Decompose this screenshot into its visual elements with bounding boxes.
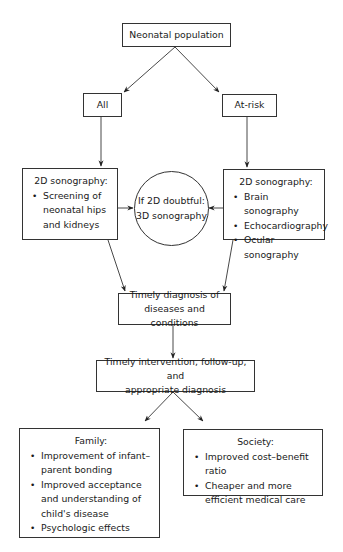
bullet-list: Brain sonography Echocardiography Ocular… [230, 190, 322, 263]
bullet-list: Screening of neonatal hips and kidneys [29, 189, 113, 233]
node-society: Society: Improved cost–benefit ratio Che… [183, 429, 323, 496]
node-timely-diagnosis: Timely diagnosis of diseases and conditi… [118, 293, 231, 325]
list-item: Screening of neonatal hips and kidneys [43, 189, 113, 233]
node-2d-sonography-screening: 2D sonography: Screening of neonatal hip… [22, 168, 118, 240]
node-label-line2: 3D sonography [136, 209, 207, 224]
node-label-line2: appropriate diagnosis [125, 383, 226, 397]
node-family: Family: Improvement of infant–parent bon… [19, 428, 160, 538]
list-item: Brain sonography [244, 190, 322, 219]
list-item: Improvement of infant–parent bonding [41, 449, 155, 478]
list-item: Improved cost–benefit ratio [205, 450, 320, 479]
node-label-line1: Timely intervention, follow-up, and [97, 355, 254, 383]
node-label-line1: If 2D doubtful: [138, 194, 205, 209]
arrow-root-to-all [124, 47, 175, 92]
list-item: Ocular sonography [244, 233, 322, 262]
node-label-line2: diseases and conditions [119, 302, 230, 330]
node-at-risk: At-risk [222, 94, 277, 117]
list-item: Psychologic effects [41, 521, 155, 536]
node-3d-sonography: If 2D doubtful: 3D sonography [134, 171, 209, 246]
node-label: At-risk [235, 98, 265, 113]
bullet-list: Improved cost–benefit ratio Cheaper and … [191, 450, 320, 508]
arrow-left-sono-to-diagnosis [108, 240, 125, 291]
arrow-root-to-at-risk [175, 47, 219, 92]
node-neonatal-population: Neonatal population [122, 23, 231, 47]
node-all: All [83, 93, 122, 117]
list-item: Cheaper and more efficient medical care [205, 479, 320, 508]
node-title: 2D sonography: [230, 175, 322, 190]
node-label: All [97, 98, 109, 113]
node-label: Neonatal population [129, 28, 223, 43]
bullet-list: Improvement of infant–parent bonding Imp… [27, 449, 155, 536]
node-title: Family: [27, 434, 155, 449]
node-title: 2D sonography: [29, 174, 113, 189]
node-label-line1: Timely diagnosis of [130, 288, 220, 302]
node-2d-sonography-at-risk: 2D sonography: Brain sonography Echocard… [223, 169, 325, 240]
node-timely-intervention: Timely intervention, follow-up, and appr… [96, 360, 255, 392]
list-item: Echocardiography [244, 219, 322, 234]
node-title: Society: [191, 435, 320, 450]
list-item: Improved acceptance and understanding of… [41, 478, 155, 522]
